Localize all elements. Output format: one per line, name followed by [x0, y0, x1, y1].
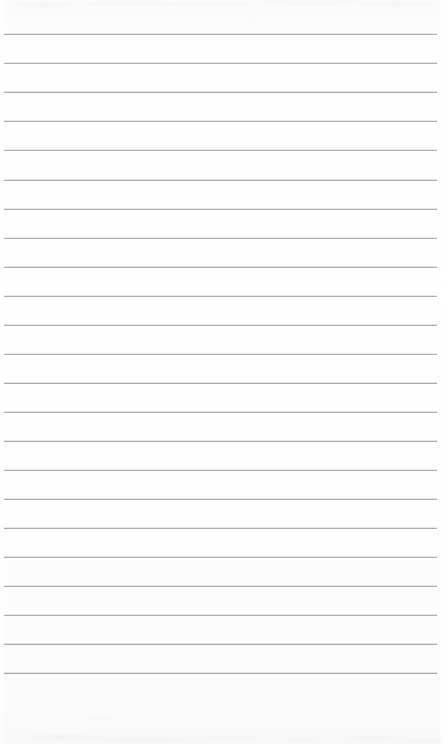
- ruled-line: [4, 238, 437, 239]
- ruled-line: [4, 615, 437, 616]
- ruled-line: [4, 121, 437, 122]
- ruled-line: [4, 34, 437, 35]
- ruled-line: [4, 354, 437, 355]
- ruled-line: [4, 586, 437, 587]
- ruled-line: [4, 92, 437, 93]
- ruled-line: [4, 673, 437, 674]
- ruled-line: [4, 180, 437, 181]
- ruled-line: [4, 412, 437, 413]
- ruled-line: [4, 383, 437, 384]
- ruled-line: [4, 150, 437, 151]
- ruled-line: [4, 209, 437, 210]
- ruled-line: [4, 557, 437, 558]
- ruled-line: [4, 267, 437, 268]
- ruled-line: [4, 499, 437, 500]
- ruled-lines-layer: [0, 0, 443, 744]
- ruled-line: [4, 296, 437, 297]
- ruled-line: [4, 644, 437, 645]
- ruled-line: [4, 470, 437, 471]
- ruled-line: [4, 63, 437, 64]
- ruled-line: [4, 325, 437, 326]
- ruled-line: [4, 441, 437, 442]
- scanned-page: Blank ruled notebook page: [0, 0, 443, 744]
- ruled-line: [4, 528, 437, 529]
